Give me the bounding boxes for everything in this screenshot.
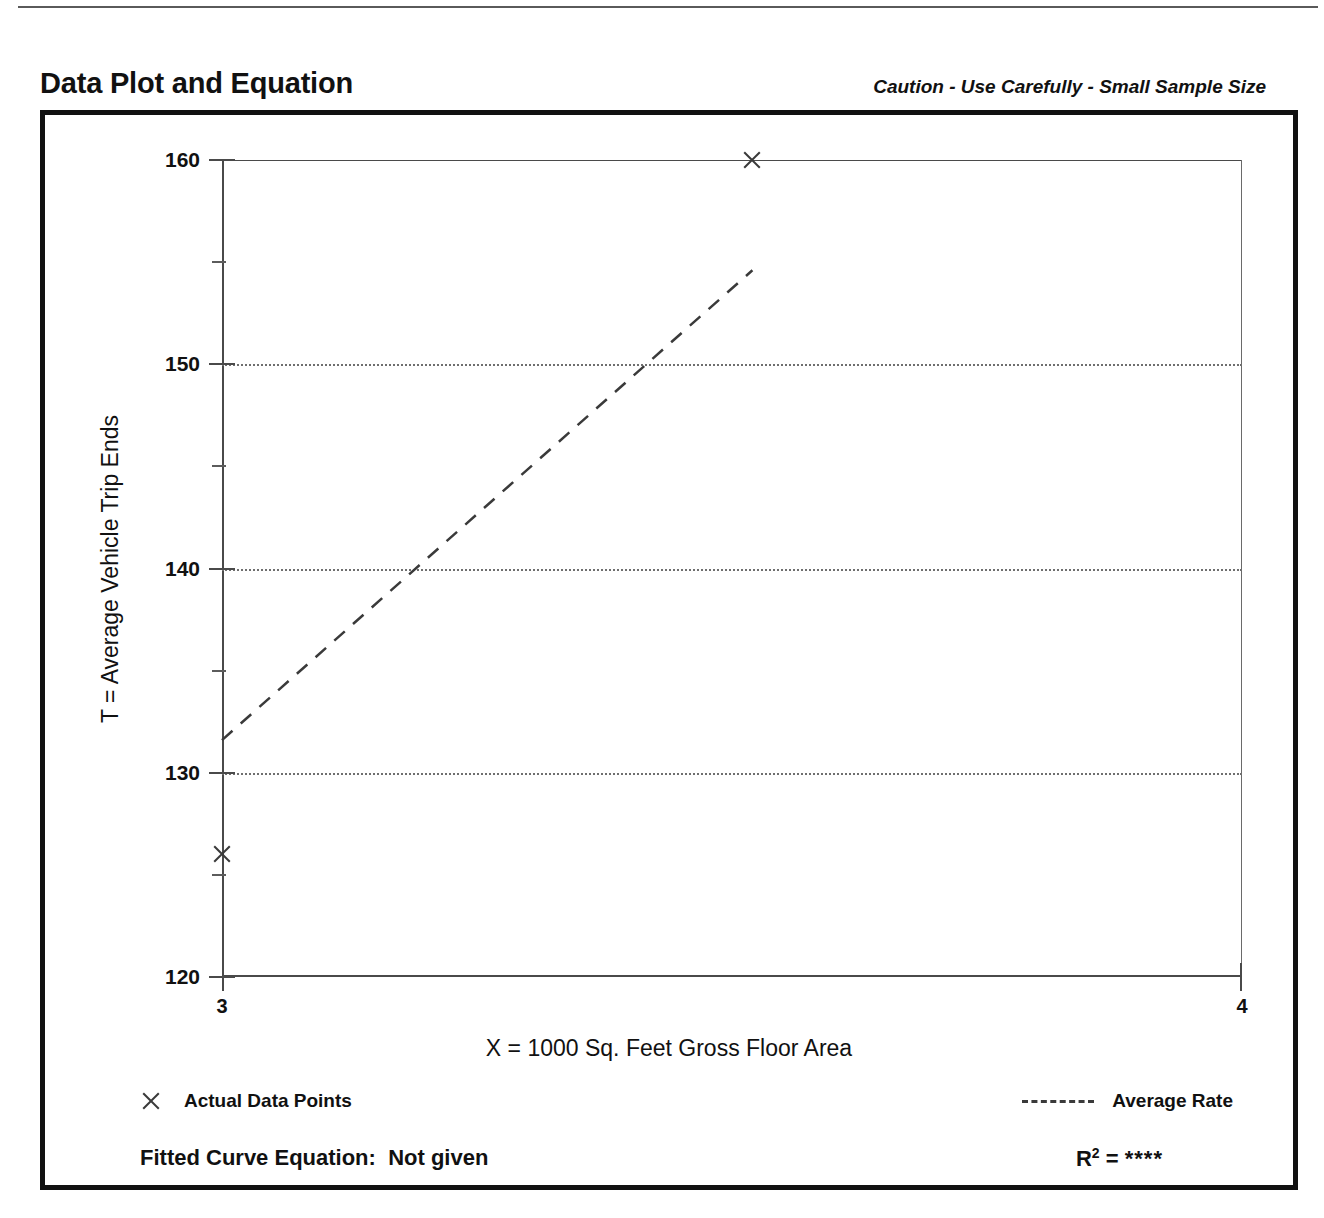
- y-tick-label: 150: [165, 352, 200, 376]
- caution-note: Caution - Use Carefully - Small Sample S…: [873, 77, 1298, 98]
- r-squared-exponent: 2: [1092, 1145, 1100, 1161]
- average-rate-line: [222, 160, 1242, 977]
- fitted-curve-equation: Fitted Curve Equation: Not given: [140, 1145, 488, 1171]
- x-tick-label: 4: [1236, 995, 1247, 1018]
- page-top-rule: [18, 6, 1318, 8]
- x-marker-icon: [140, 1090, 162, 1112]
- r-squared-equals: =: [1106, 1146, 1119, 1171]
- chart-frame: T = Average Vehicle Trip Ends 1201301401…: [40, 110, 1298, 1190]
- legend-item-actual-data-points: Actual Data Points: [140, 1090, 352, 1112]
- dashed-line-icon: [1022, 1100, 1094, 1103]
- page-title: Data Plot and Equation: [40, 69, 353, 98]
- fitted-curve-equation-label: Fitted Curve Equation:: [140, 1145, 376, 1170]
- data-point-marker: [741, 149, 763, 171]
- plot-area: 120130140150160 34: [222, 160, 1242, 977]
- r-squared-label: R: [1076, 1146, 1092, 1171]
- header: Data Plot and Equation Caution - Use Car…: [40, 58, 1298, 98]
- legend-label-average-rate: Average Rate: [1112, 1090, 1233, 1112]
- y-tick-label: 130: [165, 761, 200, 785]
- r-squared-block: R2 = ****: [1076, 1145, 1163, 1172]
- legend-label-actual-data-points: Actual Data Points: [184, 1090, 352, 1112]
- y-tick-label: 140: [165, 557, 200, 581]
- chart-footer: Fitted Curve Equation: Not given R2 = **…: [45, 1145, 1293, 1185]
- y-tick-label: 160: [165, 148, 200, 172]
- y-axis-title: T = Average Vehicle Trip Ends: [97, 415, 124, 723]
- x-tick-label: 3: [216, 995, 227, 1018]
- r-squared-value: ****: [1125, 1146, 1163, 1171]
- legend-item-average-rate: Average Rate: [1022, 1090, 1233, 1112]
- x-axis-title: X = 1000 Sq. Feet Gross Floor Area: [45, 1035, 1293, 1062]
- chart-legend: Actual Data Points Average Rate: [45, 1090, 1293, 1124]
- fitted-curve-equation-value: Not given: [388, 1145, 488, 1170]
- data-point-marker: [211, 843, 233, 865]
- y-tick-label: 120: [165, 965, 200, 989]
